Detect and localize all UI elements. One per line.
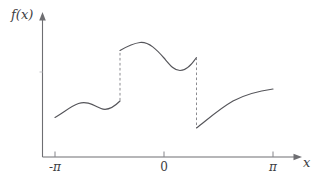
y-axis-label: f(x) bbox=[11, 8, 33, 21]
x-tick-label-neg-pi: -π bbox=[44, 161, 66, 173]
curve-branch-1 bbox=[55, 101, 120, 118]
x-tick-label-zero: 0 bbox=[153, 161, 175, 173]
y-axis-arrowhead bbox=[39, 12, 46, 21]
x-tick-label-pi: π bbox=[262, 161, 284, 173]
plot-svg bbox=[0, 0, 327, 177]
figure-canvas: f(x) x -π 0 π bbox=[0, 0, 327, 177]
x-axis-label: x bbox=[303, 156, 310, 169]
curve-branch-3 bbox=[197, 89, 274, 128]
curve-branch-2 bbox=[120, 42, 197, 70]
x-axis-arrowhead bbox=[294, 154, 303, 161]
